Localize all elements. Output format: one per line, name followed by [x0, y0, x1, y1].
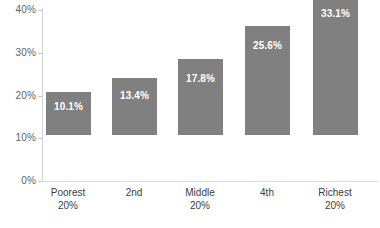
x-axis-category-label: Richest20%	[302, 186, 368, 212]
x-axis-category-label-line2: 20%	[167, 199, 233, 212]
bar-value-label: 25.6%	[245, 40, 290, 51]
bar[interactable]: 33.1%	[313, 0, 358, 135]
bar-value-label: 17.8%	[178, 73, 223, 84]
x-axis-category-label-line1: Poorest	[51, 187, 85, 198]
x-axis-category-label: Middle20%	[167, 186, 233, 212]
x-axis-category-label: Poorest20%	[35, 186, 101, 212]
x-axis-category-label-line2: 20%	[302, 199, 368, 212]
bar-value-label: 33.1%	[313, 8, 358, 19]
x-axis-category-label-line1: Middle	[185, 187, 214, 198]
x-axis-category-label: 2nd	[101, 186, 167, 199]
x-axis-category-label-line2: 20%	[35, 199, 101, 212]
bar-chart: 0%10%20%30%40% 10.1%13.4%17.8%25.6%33.1%…	[0, 0, 380, 228]
bar[interactable]: 25.6%	[245, 26, 290, 135]
bar[interactable]: 13.4%	[112, 78, 157, 135]
bar-value-label: 13.4%	[112, 90, 157, 101]
bar[interactable]: 10.1%	[46, 92, 91, 135]
x-axis-category-label: 4th	[234, 186, 300, 199]
x-axis-category-label-line1: Richest	[318, 187, 351, 198]
x-axis-category-label-line1: 2nd	[126, 187, 143, 198]
plot-area: 10.1%13.4%17.8%25.6%33.1%	[0, 0, 380, 182]
bar[interactable]: 17.8%	[178, 59, 223, 135]
x-axis-category-label-line1: 4th	[260, 187, 274, 198]
bar-value-label: 10.1%	[46, 101, 91, 112]
